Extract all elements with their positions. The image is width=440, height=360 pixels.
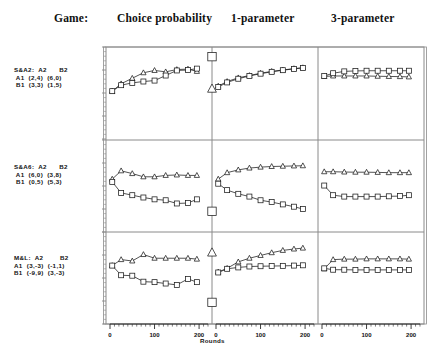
panel-S&A2-3-parameter	[322, 68, 412, 79]
x-tick-label: 100	[256, 332, 266, 338]
panel-M&L-Choice probability	[110, 252, 200, 288]
x-tick-label: 200	[194, 332, 204, 338]
panel-M&L-3-parameter	[322, 256, 412, 272]
edge-marker-square	[208, 298, 216, 306]
panel-S&A6-3-parameter	[322, 169, 412, 199]
x-tick-label: 0	[214, 332, 217, 338]
edge-marker-triangle	[208, 248, 217, 256]
panel-S&A6-Choice probability	[110, 168, 200, 206]
panel-M&L-1-parameter	[216, 245, 306, 275]
x-tick-label: 100	[150, 332, 160, 338]
edge-marker-square	[208, 52, 216, 60]
x-tick-label: 0	[320, 332, 323, 338]
panel-S&A2-Choice probability	[110, 66, 200, 94]
figure-panel-grid	[0, 0, 440, 360]
edge-marker-triangle	[208, 84, 217, 92]
x-tick-label: 100	[362, 332, 372, 338]
panel-S&A2-1-parameter	[216, 65, 306, 90]
x-axis-label: Rounds	[200, 337, 225, 344]
x-tick-label: 200	[300, 332, 310, 338]
x-tick-label: 0	[108, 332, 111, 338]
panel-S&A6-1-parameter	[216, 163, 306, 212]
edge-marker-square	[208, 207, 216, 215]
x-tick-label: 200	[406, 332, 416, 338]
